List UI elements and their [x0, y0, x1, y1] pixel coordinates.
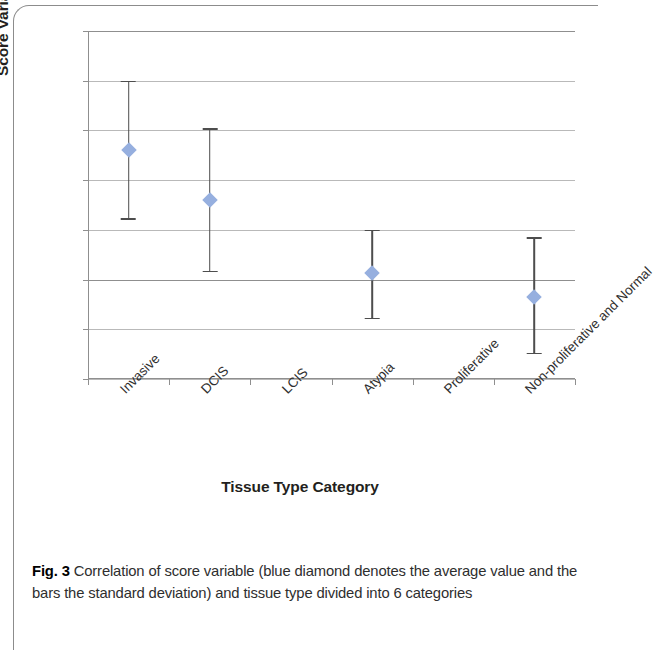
gridline — [88, 180, 575, 181]
x-tick-mark — [575, 379, 576, 385]
y-tick-mark — [83, 81, 89, 82]
x-tick-mark — [332, 379, 333, 385]
gridline — [88, 329, 575, 330]
gridline — [88, 130, 575, 131]
error-bar-cap-top — [365, 230, 380, 232]
y-tick-mark — [83, 280, 89, 281]
y-tick-mark — [83, 31, 89, 32]
y-tick-mark — [83, 230, 89, 231]
x-tick-mark — [413, 379, 414, 385]
gridline — [88, 81, 575, 82]
figure-number: Fig. 3 — [32, 563, 70, 579]
figure-caption-text: Correlation of score variable (blue diam… — [32, 563, 577, 601]
error-bar-cap-top — [121, 81, 136, 83]
x-tick-mark — [250, 379, 251, 385]
y-tick-mark — [83, 329, 89, 330]
error-bar-cap-bottom — [527, 353, 542, 355]
figure-caption: Fig. 3 Correlation of score variable (bl… — [32, 560, 580, 605]
y-tick-mark — [83, 180, 89, 181]
data-point-marker — [364, 265, 380, 281]
error-bar-cap-bottom — [202, 271, 217, 273]
x-tick-mark — [88, 379, 89, 385]
x-axis-title: Tissue Type Category — [0, 478, 600, 496]
chart-canvas: Score Variable (a.u.) 543210-1-2 Invasiv… — [0, 0, 600, 545]
plot-area: 543210-1-2 — [88, 31, 575, 379]
y-tick-mark — [83, 130, 89, 131]
y-axis-title: Score Variable (a.u.) — [0, 0, 12, 118]
error-bar-cap-top — [202, 128, 217, 130]
gridline — [88, 280, 575, 281]
y-axis-line — [88, 31, 89, 379]
error-bar-cap-top — [527, 237, 542, 239]
error-bar-cap-bottom — [365, 318, 380, 320]
x-tick-mark — [169, 379, 170, 385]
data-point-marker — [202, 192, 218, 208]
gridline — [88, 31, 575, 32]
data-point-marker — [121, 143, 137, 159]
x-tick-mark — [494, 379, 495, 385]
gridline — [88, 230, 575, 231]
data-point-marker — [527, 289, 543, 305]
error-bar-cap-bottom — [121, 218, 136, 220]
